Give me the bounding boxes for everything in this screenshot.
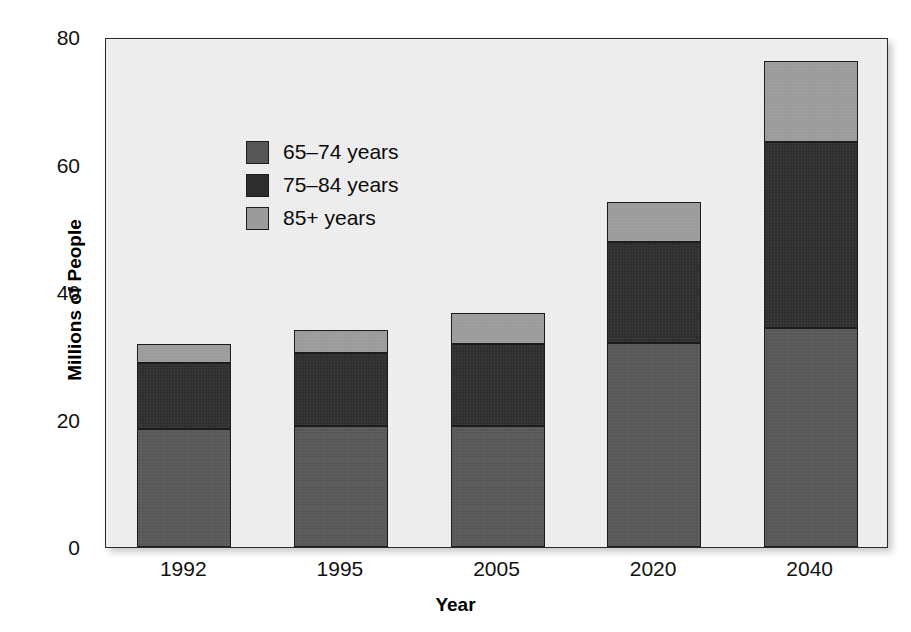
x-axis-tick-label: 2005 xyxy=(473,557,520,581)
x-axis-label: Year xyxy=(0,594,911,616)
bar-segment xyxy=(294,353,388,426)
y-axis-tick-label: 20 xyxy=(22,409,80,433)
legend-swatch-85plus-icon xyxy=(246,207,269,230)
bar-stack xyxy=(764,37,858,547)
y-axis-tick-label: 80 xyxy=(22,26,80,50)
bar-segment xyxy=(137,363,231,429)
bar-segment xyxy=(764,142,858,328)
bar-segment xyxy=(451,313,545,344)
bar-segment xyxy=(451,426,545,547)
plot-area: 65–74 years 75–84 years 85+ years xyxy=(105,38,888,548)
y-axis-tick-label: 60 xyxy=(22,154,80,178)
bar-segment xyxy=(451,344,545,426)
y-axis-tick-label: 0 xyxy=(22,536,80,560)
bar-segment xyxy=(607,242,701,343)
bar-segment xyxy=(607,343,701,547)
x-axis-tick-label: 2040 xyxy=(786,557,833,581)
bar-segment xyxy=(764,328,858,547)
bar-stack xyxy=(607,37,701,547)
legend-swatch-65-74-icon xyxy=(246,141,269,164)
x-axis-tick-label: 1995 xyxy=(317,557,364,581)
bar-stack xyxy=(294,37,388,547)
bar-chart-figure: Millions of People 020406080 65–74 years… xyxy=(0,0,911,632)
x-axis-tick-label: 2020 xyxy=(630,557,677,581)
bar-segment xyxy=(137,429,231,547)
bar-stack xyxy=(451,37,545,547)
legend-swatch-75-84-icon xyxy=(246,174,269,197)
y-axis-tick-label: 40 xyxy=(22,281,80,305)
bar-segment xyxy=(607,202,701,242)
bar-segment xyxy=(137,344,231,364)
bar-segment xyxy=(294,330,388,353)
bar-segment xyxy=(764,61,858,142)
x-axis-tick-label: 1992 xyxy=(160,557,207,581)
bar-segment xyxy=(294,426,388,547)
bar-stack xyxy=(137,37,231,547)
